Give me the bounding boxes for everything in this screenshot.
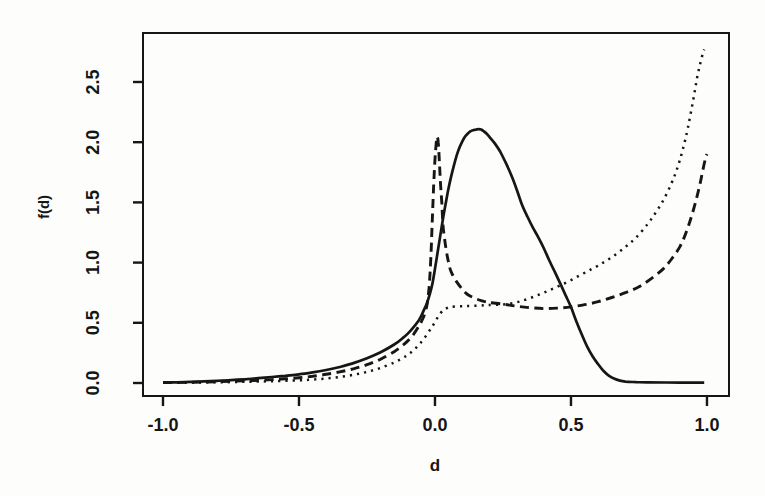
y-axis-title: f(d) — [35, 195, 52, 219]
y-axis: 0.00.51.01.52.02.5 — [83, 69, 143, 395]
x-tick-label: 0.0 — [422, 415, 447, 435]
x-tick-label: -1.0 — [147, 415, 178, 435]
x-tick-label: -0.5 — [283, 415, 314, 435]
y-tick-label: 0.0 — [83, 370, 103, 395]
curves — [163, 50, 707, 383]
x-tick-label: 0.5 — [558, 415, 583, 435]
y-tick-label: 2.0 — [83, 130, 103, 155]
plot-svg: -1.0-0.50.00.51.0 0.00.51.01.52.02.5 — [0, 0, 765, 496]
dashed-curve — [163, 137, 707, 383]
x-axis-title: d — [430, 456, 440, 476]
y-tick-label: 2.5 — [83, 69, 103, 94]
plot-frame — [143, 33, 729, 396]
solid-curve — [163, 129, 704, 382]
y-tick-label: 1.5 — [83, 190, 103, 215]
x-tick-label: 1.0 — [694, 415, 719, 435]
plot-box — [143, 33, 729, 396]
y-tick-label: 0.5 — [83, 310, 103, 335]
x-axis: -1.0-0.50.00.51.0 — [147, 396, 719, 435]
y-tick-label: 1.0 — [83, 250, 103, 275]
density-plot-figure: -1.0-0.50.00.51.0 0.00.51.01.52.02.5 d f… — [0, 0, 765, 496]
